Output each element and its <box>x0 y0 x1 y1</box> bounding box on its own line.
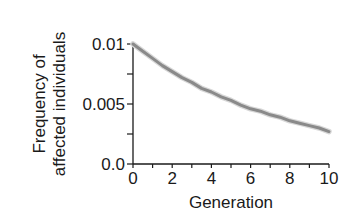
y-axis: 0.00.0050.01 <box>82 35 133 174</box>
plot-area <box>133 44 329 132</box>
series-line-frequency <box>133 44 329 132</box>
y-tick-label: 0.01 <box>92 35 125 54</box>
x-tick-label: 2 <box>167 169 176 188</box>
series-line-halo <box>133 44 329 132</box>
line-chart: Frequency of affected individuals 0.00.0… <box>0 0 356 223</box>
y-axis-title: Frequency of affected individuals <box>30 32 69 176</box>
x-tick-label: 8 <box>285 169 294 188</box>
x-axis: 0246810 <box>128 164 338 188</box>
x-tick-label: 10 <box>320 169 339 188</box>
y-axis-title-line-2: affected individuals <box>50 32 69 176</box>
x-tick-label: 0 <box>128 169 137 188</box>
y-tick-label: 0.005 <box>82 95 125 114</box>
x-tick-label: 6 <box>246 169 255 188</box>
y-tick-label: 0.0 <box>101 155 125 174</box>
x-tick-label: 4 <box>207 169 216 188</box>
x-axis-title: Generation <box>189 193 273 212</box>
y-axis-title-line-1: Frequency of <box>30 54 49 153</box>
